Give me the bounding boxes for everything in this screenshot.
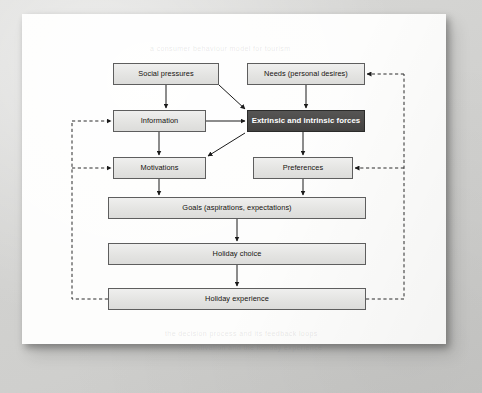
node-goals[interactable]: Goals (aspirations, expectations) (108, 197, 366, 219)
connector-forces-to-motivations (208, 133, 245, 156)
node-social-pressures-label: Social pressures (138, 70, 193, 77)
node-needs[interactable]: Needs (personal desires) (247, 63, 365, 85)
node-preferences[interactable]: Preferences (253, 157, 353, 179)
connector-social-to-forces (219, 85, 245, 109)
node-information-label: Information (141, 117, 179, 124)
node-holiday-experience[interactable]: Holiday experience (108, 288, 366, 310)
node-holiday-experience-label: Holiday experience (205, 295, 269, 302)
node-holiday-choice-label: Holiday choice (213, 250, 262, 257)
node-preferences-label: Preferences (283, 164, 323, 171)
screenshot-root: a consumer behaviour model for tourismth… (0, 0, 482, 393)
connector-experience-feedback-right-rail (366, 74, 404, 299)
node-motivations-label: Motivations (141, 164, 179, 171)
node-holiday-choice[interactable]: Holiday choice (108, 243, 366, 265)
node-social-pressures[interactable]: Social pressures (113, 63, 219, 85)
node-forces-label: Extrinsic and intrinsic forces (252, 117, 361, 125)
connector-experience-feedback-left-rail (72, 121, 108, 299)
node-motivations[interactable]: Motivations (113, 157, 206, 179)
node-goals-label: Goals (aspirations, expectations) (182, 204, 291, 211)
node-needs-label: Needs (personal desires) (264, 70, 348, 77)
node-forces[interactable]: Extrinsic and intrinsic forces (247, 110, 365, 132)
node-information[interactable]: Information (113, 110, 206, 132)
